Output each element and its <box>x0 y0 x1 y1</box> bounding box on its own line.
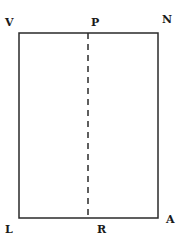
rectangle-diagram: V P N L R A <box>0 0 178 241</box>
vertex-label-l: L <box>5 224 13 235</box>
vertex-label-r: R <box>97 224 106 235</box>
vertex-label-p: P <box>91 17 99 28</box>
vertex-label-n: N <box>162 14 172 25</box>
diagram-canvas <box>0 0 178 241</box>
vertex-label-a: A <box>166 214 175 225</box>
vertex-label-v: V <box>5 17 14 28</box>
